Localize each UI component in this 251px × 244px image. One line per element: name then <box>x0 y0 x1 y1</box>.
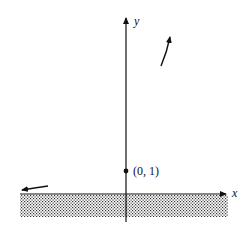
x-axis-label: x <box>232 187 237 199</box>
point-marker <box>124 169 129 174</box>
y-axis-label: y <box>134 15 139 27</box>
graph-canvas <box>0 0 251 244</box>
point-label: (0, 1) <box>133 165 159 177</box>
shaded-region <box>20 195 228 217</box>
arrow-lower-left-icon <box>22 186 48 190</box>
arrow-upper-right-icon <box>161 37 170 66</box>
